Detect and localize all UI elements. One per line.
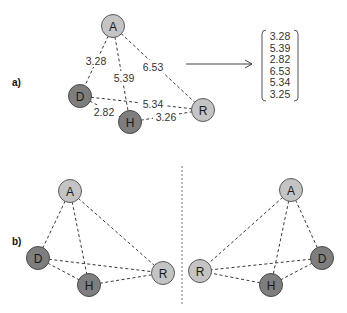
left-bracket	[262, 30, 266, 101]
node-h: H	[119, 111, 142, 134]
panel-b-label: b)	[12, 236, 21, 247]
panel-a-label: a)	[12, 77, 21, 88]
distance-vector: 3.28 5.39 2.82 6.53 5.34 3.25	[262, 30, 298, 101]
panel-a: a) 3.28 5.39 6.53 5.34 2.82 3.26 A D	[12, 15, 298, 134]
panel-b: b) A D H R	[12, 166, 334, 305]
node-r: R	[189, 260, 212, 283]
edge-weight-h-r: 3.26	[156, 111, 177, 123]
node-h: H	[78, 274, 101, 297]
svg-text:H: H	[267, 279, 276, 293]
vector-entry: 3.25	[270, 88, 291, 100]
node-a: A	[59, 180, 82, 203]
svg-text:D: D	[318, 252, 327, 266]
svg-text:R: R	[159, 267, 168, 281]
vector-entry: 2.82	[270, 53, 291, 65]
vector-entry: 5.34	[270, 76, 291, 88]
edge-weight-a-h: 5.39	[114, 72, 135, 84]
svg-text:A: A	[66, 185, 74, 199]
edge-weight-d-h: 2.82	[94, 106, 115, 118]
svg-text:D: D	[34, 252, 43, 266]
svg-text:A: A	[287, 184, 295, 198]
node-r: R	[192, 99, 215, 122]
svg-text:H: H	[126, 116, 135, 130]
vector-entry: 5.39	[270, 42, 291, 54]
graph-figure: a) 3.28 5.39 6.53 5.34 2.82 3.26 A D	[0, 0, 347, 313]
node-a: A	[102, 15, 125, 38]
right-bracket	[294, 30, 298, 101]
node-d: D	[69, 85, 92, 108]
vector-entry: 6.53	[270, 65, 291, 77]
node-r: R	[152, 262, 175, 285]
edge-weight-d-r: 5.34	[143, 98, 164, 110]
svg-text:D: D	[76, 90, 85, 104]
node-d: D	[27, 247, 50, 270]
svg-text:H: H	[85, 279, 94, 293]
node-d: D	[311, 247, 334, 270]
svg-text:A: A	[109, 20, 117, 34]
node-a: A	[280, 179, 303, 202]
svg-text:R: R	[199, 104, 208, 118]
graph-left: A D H R	[27, 180, 175, 297]
arrow-icon	[186, 60, 252, 68]
edge-weight-a-r: 6.53	[143, 61, 164, 73]
edge-weight-a-d: 3.28	[86, 55, 107, 67]
vector-entry: 3.28	[270, 30, 291, 42]
node-h: H	[260, 274, 283, 297]
graph-right-mirrored: A R H D	[189, 179, 334, 297]
svg-text:R: R	[196, 265, 205, 279]
